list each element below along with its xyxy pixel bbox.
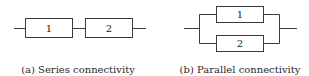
parallel-diagram: 1 2 (b) Parallel connectivity: [180, 7, 301, 76]
parallel-block-1-label: 1: [237, 9, 243, 20]
series-caption: (a) Series connectivity: [21, 64, 135, 75]
series-block-2-label: 2: [106, 23, 112, 34]
parallel-caption: (b) Parallel connectivity: [180, 64, 301, 75]
parallel-block-2-label: 2: [237, 38, 243, 49]
series-diagram: 1 2 (a) Series connectivity: [14, 19, 146, 76]
connectivity-figure: 1 2 (a) Series connectivity 1 2 (b) Para…: [0, 0, 309, 76]
series-block-1-label: 1: [46, 23, 52, 34]
